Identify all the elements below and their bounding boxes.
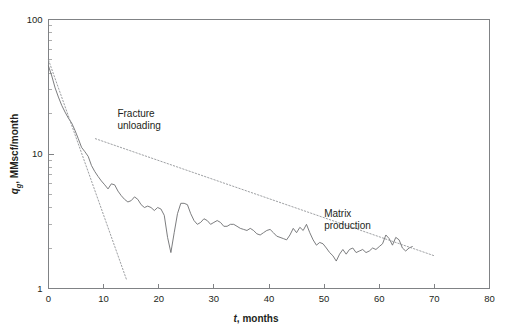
x-axis-title-units: , months xyxy=(237,313,279,324)
x-tick-label-70: 70 xyxy=(429,293,440,304)
data-series-group xyxy=(49,60,435,280)
y-tick-label-100: 100 xyxy=(27,14,43,25)
chart-canvas: 110100 01020304050607080 Fractureunloadi… xyxy=(0,0,512,328)
x-tick-label-30: 30 xyxy=(209,293,220,304)
svg-text:t, months: t, months xyxy=(233,313,278,324)
x-tick-label-60: 60 xyxy=(374,293,385,304)
x-tick-label-50: 50 xyxy=(319,293,330,304)
series-matrix-production-trend xyxy=(95,139,434,256)
y-axis-title-units: , MMscf/month xyxy=(9,114,20,184)
x-axis-tick-labels: 01020304050607080 xyxy=(46,293,495,304)
axis-frame-path xyxy=(49,20,490,289)
series-fracture-unloading-trend xyxy=(49,60,127,280)
plot-frame xyxy=(49,20,490,289)
y-tick-label-1: 1 xyxy=(37,283,42,294)
svg-text:qg, MMscf/month: qg, MMscf/month xyxy=(9,114,23,195)
y-axis-tick-labels: 110100 xyxy=(27,14,43,294)
x-tick-label-0: 0 xyxy=(46,293,51,304)
chart-annotations: FractureunloadingMatrixproduction xyxy=(117,108,370,232)
gas-rate-decline-chart: 110100 01020304050607080 Fractureunloadi… xyxy=(0,0,512,328)
annotation-matrix-production: Matrixproduction xyxy=(324,208,371,231)
y-tick-label-10: 10 xyxy=(32,148,43,159)
x-tick-label-10: 10 xyxy=(98,293,109,304)
x-tick-label-20: 20 xyxy=(153,293,164,304)
x-tick-label-40: 40 xyxy=(264,293,275,304)
x-axis-major-ticks xyxy=(49,284,490,289)
y-axis-title: qg, MMscf/month xyxy=(9,114,23,195)
x-tick-label-80: 80 xyxy=(484,293,495,304)
annotation-fracture-unloading: Fractureunloading xyxy=(117,108,160,131)
x-axis-title: t, months xyxy=(233,313,278,324)
series-gas-rate xyxy=(49,66,413,261)
